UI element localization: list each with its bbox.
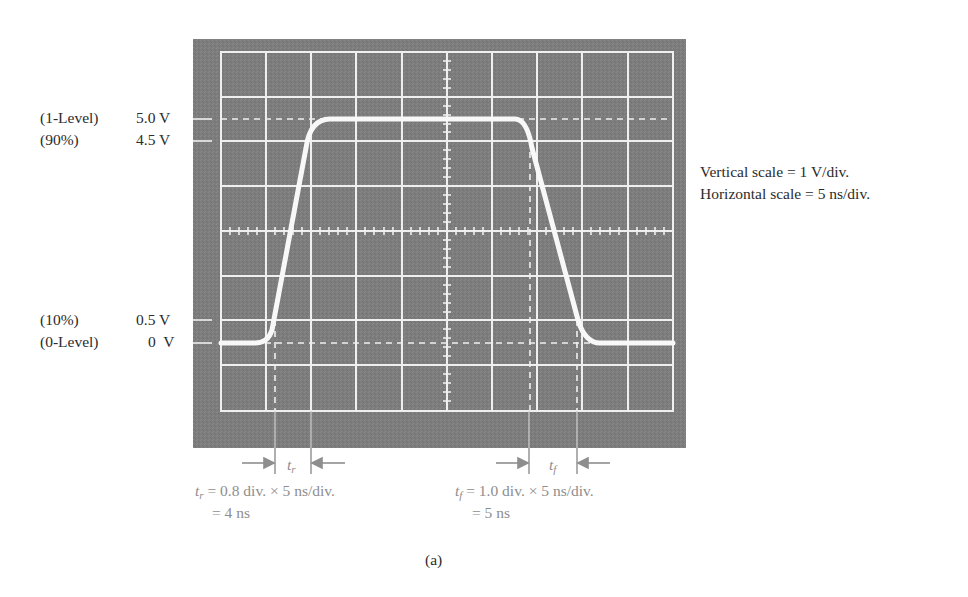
horizontal-scale-note: Horizontal scale = 5 ns/div. [700, 185, 870, 203]
fall-time-formula: tf = 1.0 div. × 5 ns/div. [455, 482, 594, 501]
label-0-level-name: (0-Level) [40, 333, 99, 351]
label-0v-value: 0 V [148, 333, 174, 351]
fall-time-result: = 5 ns [472, 504, 510, 522]
rise-time-formula: tr = 0.8 div. × 5 ns/div. [195, 482, 335, 501]
label-4-5v-value: 4.5 V [136, 131, 170, 149]
vertical-scale-note: Vertical scale = 1 V/div. [700, 163, 849, 181]
rise-time-result: = 4 ns [212, 504, 250, 522]
label-1-level-name: (1-Level) [40, 109, 99, 127]
label-10pct-name: (10%) [40, 311, 79, 329]
label-90pct-name: (90%) [40, 131, 79, 149]
rise-time-marker: tr [287, 456, 296, 475]
figure-caption: (a) [425, 551, 442, 569]
fall-time-marker: tf [549, 456, 556, 475]
label-0-5v-value: 0.5 V [136, 311, 170, 329]
label-5v-value: 5.0 V [136, 109, 170, 127]
